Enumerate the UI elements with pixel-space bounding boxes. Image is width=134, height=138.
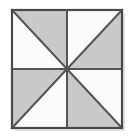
pinwheel-square-figure — [0, 0, 134, 138]
line-group — [12, 10, 122, 128]
